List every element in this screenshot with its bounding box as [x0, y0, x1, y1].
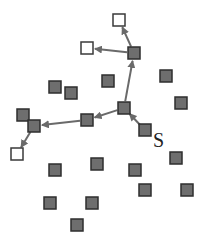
visited-node	[91, 158, 103, 170]
directed-edge	[95, 110, 118, 117]
visited-node	[44, 197, 56, 209]
visited-node	[65, 87, 77, 99]
unvisited-node	[11, 148, 23, 160]
directed-edge	[122, 27, 131, 46]
visited-node	[86, 197, 98, 209]
source-label: S	[153, 129, 164, 151]
directed-edge	[95, 49, 127, 52]
graph-diagram: S	[0, 0, 201, 246]
visited-node	[128, 47, 140, 59]
visited-node	[49, 164, 61, 176]
visited-node	[17, 109, 29, 121]
directed-edge	[21, 132, 30, 147]
visited-node	[28, 120, 40, 132]
unvisited-node	[81, 42, 93, 54]
directed-edge	[125, 61, 132, 101]
visited-node	[81, 114, 93, 126]
visited-node	[71, 219, 83, 231]
visited-node	[49, 81, 61, 93]
unvisited-node	[113, 14, 125, 26]
visited-node	[118, 102, 130, 114]
visited-node	[181, 184, 193, 196]
nodes-layer	[11, 14, 193, 231]
diagram-canvas: S	[0, 0, 201, 246]
directed-edge	[42, 121, 80, 125]
source-node	[139, 124, 151, 136]
visited-node	[160, 70, 172, 82]
visited-node	[102, 75, 114, 87]
visited-node	[129, 164, 141, 176]
visited-node	[170, 152, 182, 164]
visited-node	[175, 97, 187, 109]
visited-node	[139, 184, 151, 196]
